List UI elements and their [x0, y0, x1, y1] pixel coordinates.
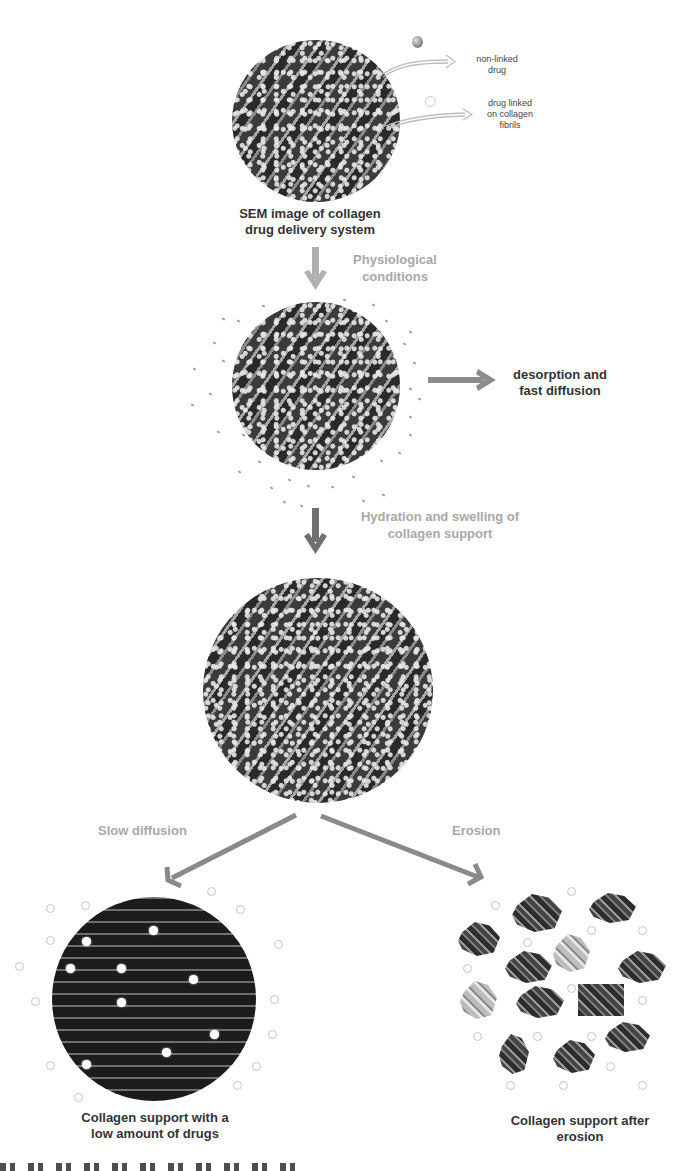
arrow-down-physiological-icon — [304, 247, 327, 290]
arrow-erosion-icon — [321, 816, 481, 884]
legend-arrow-linked-icon — [386, 109, 472, 129]
arrow-down-hydration-icon — [304, 508, 327, 554]
legend-arrow-non-linked-icon — [383, 55, 455, 77]
arrows-layer — [0, 0, 694, 1171]
arrow-slow-diffusion-icon — [167, 815, 296, 886]
cut-off-caption-text — [0, 1163, 300, 1171]
arrow-right-desorption-icon — [428, 369, 496, 391]
